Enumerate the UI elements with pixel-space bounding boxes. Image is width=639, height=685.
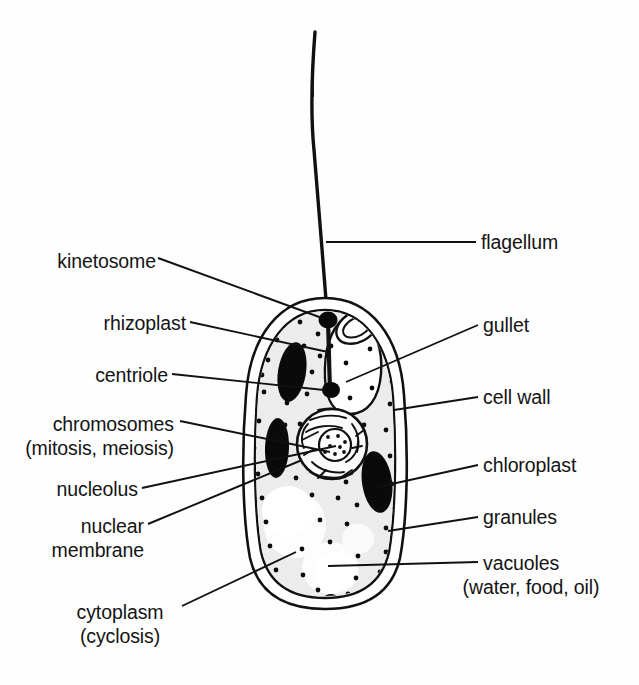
label-chromosomes-subtext: (mitosis, meiosis) — [0, 436, 174, 460]
label-chromosomes: chromosomes (mitosis, meiosis) — [0, 412, 174, 460]
label-nuclear-membrane-subtext: membrane — [0, 538, 144, 562]
rhizoplast-shape — [328, 322, 330, 388]
label-vacuoles-text: vacuoles — [483, 551, 634, 575]
label-centriole: centriole — [0, 364, 168, 387]
label-nuclear-membrane-text: nuclear — [0, 514, 144, 538]
label-chloroplast-text: chloroplast — [483, 454, 576, 476]
flagellum-shape — [312, 32, 328, 318]
label-gullet-text: gullet — [483, 314, 529, 336]
label-gullet: gullet — [483, 314, 529, 337]
label-chloroplast: chloroplast — [483, 454, 576, 477]
centriole-shape — [322, 382, 340, 398]
leader-cell-wall — [394, 397, 478, 410]
label-rhizoplast: rhizoplast — [0, 312, 186, 335]
label-cell-wall-text: cell wall — [483, 386, 550, 408]
label-kinetosome: kinetosome — [0, 250, 156, 273]
label-nuclear-membrane: nuclear membrane — [0, 514, 144, 562]
nucleus-shape — [297, 409, 367, 479]
label-granules: granules — [483, 506, 557, 529]
label-rhizoplast-text: rhizoplast — [104, 312, 186, 334]
label-vacuoles-subtext: (water, food, oil) — [428, 575, 634, 599]
label-centriole-text: centriole — [95, 364, 168, 386]
label-nucleolus: nucleolus — [0, 478, 138, 501]
nucleolus-shape — [319, 429, 351, 461]
label-granules-text: granules — [483, 506, 557, 528]
leader-kinetosome — [158, 258, 322, 318]
kinetosome-shape — [319, 312, 338, 329]
label-cytoplasm: cytoplasm (cyclosis) — [30, 600, 210, 648]
label-vacuoles: vacuoles (water, food, oil) — [428, 551, 634, 599]
label-nucleolus-text: nucleolus — [57, 478, 139, 500]
label-kinetosome-text: kinetosome — [57, 250, 156, 272]
label-chromosomes-text: chromosomes — [0, 412, 174, 436]
label-cytoplasm-text: cytoplasm — [30, 600, 210, 624]
label-cell-wall: cell wall — [483, 386, 550, 409]
label-flagellum: flagellum — [481, 231, 558, 254]
label-flagellum-text: flagellum — [481, 231, 558, 253]
diagram-canvas: kinetosome rhizoplast centriole chromoso… — [0, 0, 639, 685]
label-cytoplasm-subtext: (cyclosis) — [30, 624, 210, 648]
